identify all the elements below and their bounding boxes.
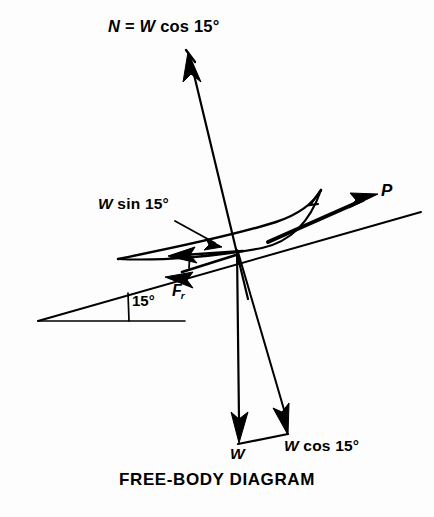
normal-force-symbol: N <box>108 17 120 35</box>
vector-normal-force-shaft <box>190 58 248 299</box>
figure-caption: FREE-BODY DIAGRAM <box>0 470 434 490</box>
angle-tick-mark <box>128 293 129 321</box>
normal-force-relation: = <box>125 17 135 35</box>
friction-subscript: r <box>181 290 185 301</box>
figure-canvas: N = W cos 15° W sin 15° P 15° Fr W W cos… <box>0 0 434 517</box>
normal-force-angle: 15° <box>194 17 220 35</box>
friction-origin-connector <box>189 252 190 268</box>
label-w-sin-component: W sin 15° <box>98 196 169 212</box>
vector-applied-force-arrowhead <box>349 193 378 208</box>
vector-applied-force <box>268 190 378 242</box>
incline-construction <box>38 212 421 321</box>
vector-w-cos-component-shaft <box>238 252 285 413</box>
label-applied-force: P <box>381 182 392 199</box>
incline-surface-line <box>38 212 421 321</box>
w-sin-function: sin <box>117 195 140 212</box>
normal-force-magnitude-symbol: W <box>140 17 156 35</box>
free-body-diagram-drawing <box>0 0 434 517</box>
normal-force-function: cos <box>160 17 189 35</box>
vector-weight-shaft <box>237 250 239 420</box>
label-friction-force: Fr <box>172 283 186 299</box>
vector-w-cos-component-arrowhead <box>273 403 289 435</box>
label-normal-force: N = W cos 15° <box>108 18 220 35</box>
vector-w-cos-component <box>238 252 289 435</box>
w-sin-symbol: W <box>98 195 113 212</box>
w-sin-angle: 15° <box>145 195 169 212</box>
w-cos-symbol: W <box>284 437 299 454</box>
w-cos-angle: 15° <box>335 437 359 454</box>
parallelogram-closure-line <box>238 434 288 444</box>
label-w-cos-component: W cos 15° <box>284 438 359 454</box>
label-weight: W <box>230 446 245 462</box>
w-cos-function: cos <box>303 437 330 454</box>
label-incline-angle: 15° <box>132 293 155 308</box>
